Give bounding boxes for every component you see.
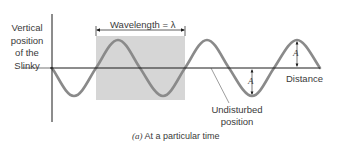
undisturbed-position-label: Undisturbed position <box>207 104 267 128</box>
caption-prefix: (a) <box>132 131 143 141</box>
y-label-line: of the <box>5 47 49 60</box>
y-label-line: Vertical <box>5 22 49 35</box>
arrowhead-down-icon <box>296 64 299 68</box>
y-axis-label: Vertical position of the Slinky <box>5 22 49 72</box>
undisturbed-line: Undisturbed <box>207 104 267 116</box>
y-label-line: Slinky <box>5 60 49 73</box>
wavelength-label: Wavelength = λ <box>110 19 175 31</box>
amplitude-label-crest: A <box>293 48 299 58</box>
arrowhead-right-icon <box>181 28 185 31</box>
arrowhead-down-icon <box>251 92 254 96</box>
arrowhead-up-icon <box>251 69 254 73</box>
x-axis-label: Distance <box>286 73 323 85</box>
y-label-line: position <box>5 35 49 48</box>
figure-caption: (a) At a particular time <box>132 130 220 142</box>
arrowhead-left-icon <box>96 28 100 31</box>
undisturbed-leader <box>211 68 229 103</box>
undisturbed-line: position <box>207 116 267 128</box>
arrowhead-up-icon <box>296 41 299 45</box>
caption-text: At a particular time <box>143 131 220 141</box>
amplitude-label-trough: A <box>248 76 254 86</box>
